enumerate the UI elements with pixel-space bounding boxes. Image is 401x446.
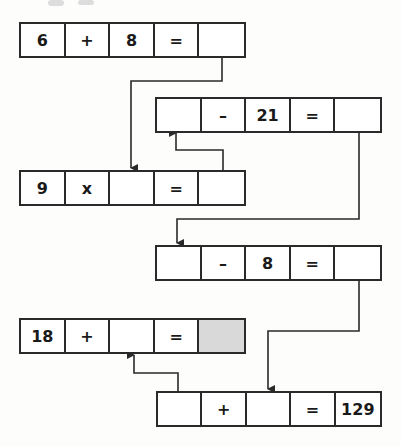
cell: 9 — [21, 172, 66, 204]
equation-row-5: 18 + = — [19, 318, 246, 354]
equation-row-3: 9 x = — [19, 170, 246, 206]
input-cell[interactable] — [110, 320, 155, 352]
answer-cell[interactable] — [335, 99, 380, 131]
operator-cell: + — [66, 24, 111, 56]
connector-arrows — [0, 0, 401, 446]
cell: 8 — [110, 24, 155, 56]
equation-row-6: + = 129 — [156, 391, 382, 427]
operator-cell: – — [202, 99, 247, 131]
answer-cell[interactable] — [199, 24, 244, 56]
cell: 6 — [21, 24, 66, 56]
cell: 8 — [246, 247, 291, 279]
operator-cell: + — [66, 320, 111, 352]
input-cell[interactable] — [157, 99, 202, 131]
equals-cell: = — [155, 320, 200, 352]
cell: 18 — [21, 320, 66, 352]
equals-cell: = — [291, 393, 335, 425]
input-cell[interactable] — [247, 393, 291, 425]
equals-cell: = — [291, 247, 336, 279]
equals-cell: = — [155, 24, 200, 56]
equals-cell: = — [155, 172, 200, 204]
equation-row-2: – 21 = — [155, 97, 382, 133]
result-cell: 129 — [336, 393, 380, 425]
equation-row-4: – 8 = — [155, 245, 382, 281]
equation-row-1: 6 + 8 = — [19, 22, 246, 58]
input-cell[interactable] — [110, 172, 155, 204]
equals-cell: = — [291, 99, 336, 131]
answer-cell[interactable] — [199, 172, 244, 204]
arithmetic-chain-puzzle: 6 + 8 = – 21 = 9 x = – 8 = 18 + = + = — [0, 0, 401, 446]
operator-cell: + — [202, 393, 246, 425]
cell: 21 — [246, 99, 291, 131]
final-answer-cell[interactable] — [199, 320, 244, 352]
input-cell[interactable] — [157, 247, 202, 279]
answer-cell[interactable] — [335, 247, 380, 279]
input-cell[interactable] — [158, 393, 202, 425]
operator-cell: – — [202, 247, 247, 279]
operator-cell: x — [66, 172, 111, 204]
